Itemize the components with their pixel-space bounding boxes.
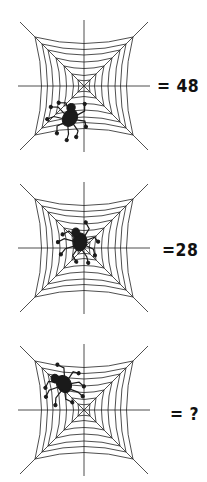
equation-label-1: = 48 bbox=[157, 76, 199, 96]
puzzle-panel-3: = ? bbox=[0, 326, 207, 482]
puzzle-panel-2: =28 bbox=[0, 164, 207, 325]
spider-icon bbox=[18, 344, 150, 476]
equation-label-2: =28 bbox=[162, 240, 198, 260]
puzzle-panel-1: = 48 bbox=[0, 2, 207, 163]
spider-icon bbox=[18, 182, 150, 314]
equation-label-3: = ? bbox=[170, 404, 199, 424]
spider-icon bbox=[18, 20, 150, 152]
